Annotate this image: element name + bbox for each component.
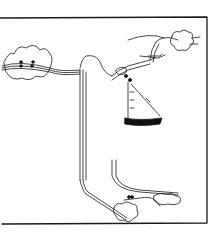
triangle-region	[125, 82, 162, 126]
diagram-canvas	[0, 0, 220, 233]
schematic-diagram	[0, 0, 220, 233]
upper-junction	[112, 35, 178, 81]
upper-right-gland	[170, 30, 200, 51]
central-trunk	[80, 56, 127, 220]
left-gland	[2, 45, 80, 79]
lower-arc	[112, 160, 178, 206]
